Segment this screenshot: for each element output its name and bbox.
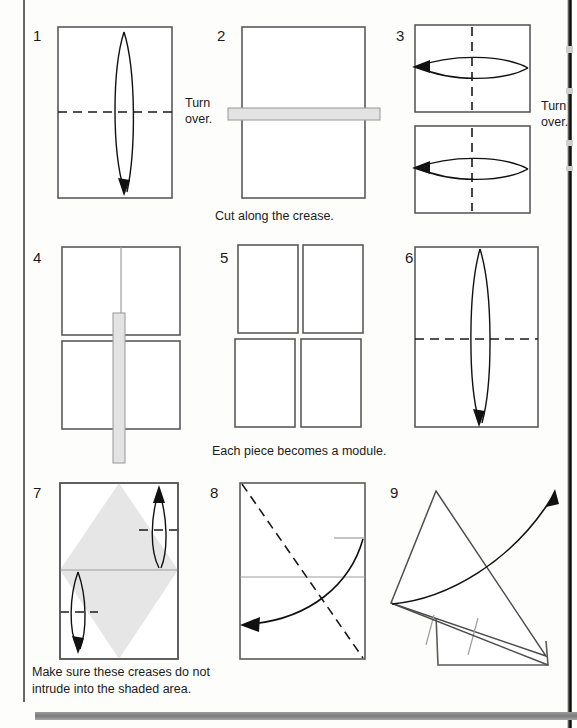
step-2-caption: Cut along the crease. bbox=[215, 208, 334, 225]
step-2-figure bbox=[210, 0, 400, 225]
step-8-panel: 8 bbox=[200, 473, 385, 668]
step-3-figure bbox=[390, 0, 550, 225]
step-7-caption: Make sure these creases do not intrude i… bbox=[32, 664, 210, 698]
page-edge-nick bbox=[566, 88, 573, 94]
step-5-caption: Each piece becomes a module. bbox=[212, 443, 386, 460]
page-edge-nick bbox=[566, 140, 573, 146]
page-canvas: 1 Turn over. 2 Cut along the crease. 3 bbox=[0, 0, 577, 728]
page-edge-nick bbox=[566, 166, 573, 171]
step-1-figure bbox=[0, 0, 200, 215]
step-2-panel: 2 bbox=[210, 0, 390, 230]
page-footer-rule bbox=[35, 712, 577, 720]
step-9-panel: 9 bbox=[378, 473, 577, 668]
step-8-figure bbox=[200, 473, 385, 663]
step-3-panel: 3 bbox=[390, 0, 550, 225]
step-6-panel: 6 bbox=[400, 235, 575, 445]
step-7-figure bbox=[0, 473, 215, 663]
step-1-panel: 1 bbox=[0, 0, 200, 215]
step-4-figure bbox=[0, 235, 210, 470]
step-5-figure bbox=[215, 235, 400, 440]
step-3-side-label: Turn over. bbox=[541, 98, 568, 131]
step-6-figure bbox=[400, 235, 575, 440]
step-9-figure bbox=[378, 473, 577, 668]
page-edge-nick bbox=[566, 46, 573, 53]
step-7-panel: 7 bbox=[0, 473, 215, 668]
step-1-side-label: Turn over. bbox=[185, 95, 212, 128]
step-4-panel: 4 bbox=[0, 235, 210, 465]
step-5-panel: 5 bbox=[215, 235, 400, 445]
